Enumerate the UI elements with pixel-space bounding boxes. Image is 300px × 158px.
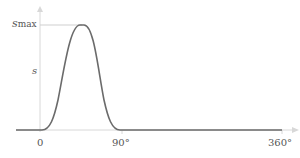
smax-label: smax bbox=[12, 18, 37, 29]
chart-canvas bbox=[0, 0, 300, 158]
x-axis-arrow-icon bbox=[292, 127, 299, 133]
tick-label-360: 360° bbox=[268, 138, 292, 148]
tick-label-90: 90° bbox=[112, 138, 130, 148]
tick-label-0: 0 bbox=[37, 138, 43, 148]
s-axis-label: s bbox=[32, 66, 37, 76]
cam-displacement-chart: smax s 0 90° 360° bbox=[0, 0, 300, 158]
y-axis-arrow-icon bbox=[37, 6, 43, 12]
displacement-curve bbox=[16, 25, 282, 130]
